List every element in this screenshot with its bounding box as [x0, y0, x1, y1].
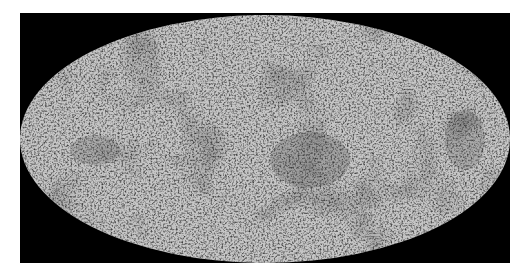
mollweide-ellipse — [20, 15, 510, 265]
sky-map — [0, 0, 529, 275]
